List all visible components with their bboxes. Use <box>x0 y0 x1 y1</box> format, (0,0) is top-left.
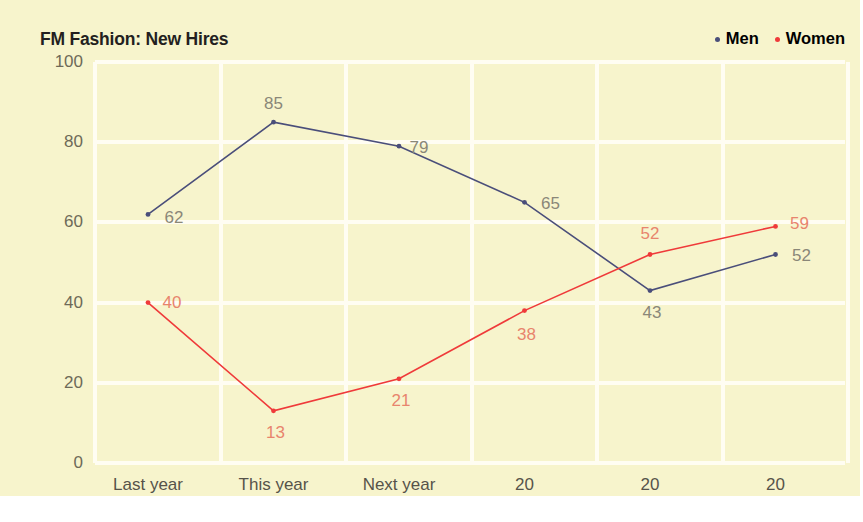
data-label-men: 85 <box>264 94 283 114</box>
marker-women[interactable] <box>773 224 778 229</box>
x-axis-label: Next year <box>363 475 436 495</box>
data-label-women: 59 <box>790 214 809 234</box>
data-label-men: 52 <box>792 246 811 266</box>
plot-area: 020406080100 Last yearThis yearNext year… <box>95 62 845 463</box>
line-men <box>148 122 776 290</box>
page-title: FM Fashion: New Hires <box>40 29 228 50</box>
y-axis-label: 40 <box>23 293 83 313</box>
x-axis-label: 20 <box>766 475 785 495</box>
marker-men[interactable] <box>271 120 276 125</box>
marker-men[interactable] <box>146 212 151 217</box>
legend-label-women: Women <box>786 29 845 48</box>
line-women <box>148 226 776 410</box>
legend-label-men: Men <box>726 29 759 48</box>
gridline-x-6 <box>846 62 850 463</box>
x-axis-label: Last year <box>113 475 183 495</box>
data-label-men: 62 <box>165 208 184 228</box>
data-label-men: 79 <box>410 138 429 158</box>
legend-item-men[interactable]: Men <box>715 29 759 48</box>
y-axis-label: 60 <box>23 212 83 232</box>
legend-dot-men-icon <box>715 37 720 42</box>
y-axis-label: 20 <box>23 373 83 393</box>
y-axis-label: 0 <box>23 453 83 473</box>
marker-women[interactable] <box>522 308 527 313</box>
x-axis-label: This year <box>239 475 309 495</box>
series-lines <box>95 62 845 463</box>
data-label-women: 38 <box>517 325 536 345</box>
marker-women[interactable] <box>648 252 653 257</box>
chart-figure: FM Fashion: New Hires Men Women 02040608… <box>0 0 863 522</box>
data-label-men: 43 <box>643 303 662 323</box>
marker-men[interactable] <box>522 200 527 205</box>
chart-legend: Men Women <box>715 29 845 48</box>
legend-item-women[interactable]: Women <box>775 29 845 48</box>
marker-women[interactable] <box>397 376 402 381</box>
data-label-women: 13 <box>266 423 285 443</box>
y-axis-label: 80 <box>23 132 83 152</box>
marker-women[interactable] <box>146 300 151 305</box>
marker-men[interactable] <box>397 144 402 149</box>
x-axis-label: 20 <box>515 475 534 495</box>
marker-men[interactable] <box>648 288 653 293</box>
marker-women[interactable] <box>271 408 276 413</box>
data-label-women: 52 <box>641 224 660 244</box>
data-label-women: 21 <box>392 391 411 411</box>
marker-men[interactable] <box>773 252 778 257</box>
y-axis-label: 100 <box>23 52 83 72</box>
data-label-men: 65 <box>541 194 560 214</box>
data-label-women: 40 <box>163 293 182 313</box>
legend-dot-women-icon <box>775 37 780 42</box>
x-axis-label: 20 <box>641 475 660 495</box>
